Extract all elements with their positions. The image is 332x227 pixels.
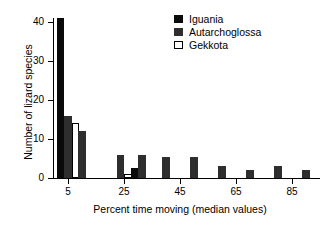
bar-autarchoglossa: [64, 116, 72, 178]
bar-autarchoglossa: [78, 131, 86, 178]
x-tick-label: 65: [230, 187, 241, 197]
bar-autarchoglossa: [162, 157, 170, 178]
x-tick-label: 85: [286, 187, 297, 197]
y-tick-mark: [48, 100, 53, 101]
y-tick-mark: [48, 139, 53, 140]
x-axis-line: [53, 178, 320, 179]
bar-autarchoglossa: [218, 166, 226, 178]
x-axis-title: Percent time moving (median values): [40, 203, 320, 215]
x-tick-mark: [124, 179, 125, 184]
x-tick-label: 25: [118, 187, 129, 197]
x-tick-label: 45: [174, 187, 185, 197]
legend-swatch-icon-autarchoglossa: [174, 28, 183, 36]
x-tick-mark: [180, 179, 181, 184]
bar-autarchoglossa: [138, 155, 146, 178]
legend-label-gekkota: Gekkota: [189, 39, 228, 51]
x-tick-label: 5: [65, 187, 71, 197]
bar-autarchoglossa: [117, 155, 125, 178]
y-axis-title: Number of lizard species: [22, 17, 34, 187]
bar-autarchoglossa: [246, 170, 254, 178]
legend-swatch-icon-iguania: [174, 15, 183, 23]
x-tick-mark: [68, 179, 69, 184]
bar-autarchoglossa: [274, 166, 282, 178]
legend-item-iguania: Iguania: [174, 13, 261, 25]
bar-iguania: [57, 18, 65, 178]
y-tick-mark: [48, 61, 53, 62]
bar-autarchoglossa: [190, 157, 198, 178]
y-tick-mark: [48, 178, 53, 179]
lizard-species-bar-chart: 010203040 525456585 Number of lizard spe…: [0, 0, 332, 227]
x-tick-mark: [236, 179, 237, 184]
legend-label-iguania: Iguania: [189, 13, 223, 25]
legend-swatch-icon-gekkota: [174, 41, 183, 49]
chart-legend: Iguania Autarchoglossa Gekkota: [174, 13, 261, 52]
bar-autarchoglossa: [302, 170, 310, 178]
legend-item-autarchoglossa: Autarchoglossa: [174, 26, 261, 38]
legend-label-autarchoglossa: Autarchoglossa: [189, 26, 261, 38]
bar-iguania: [131, 168, 139, 178]
legend-item-gekkota: Gekkota: [174, 39, 261, 51]
x-tick-mark: [292, 179, 293, 184]
y-tick-mark: [48, 22, 53, 23]
